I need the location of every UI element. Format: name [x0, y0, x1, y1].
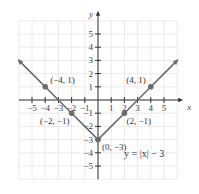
y-tick-label: −3 — [83, 135, 93, 145]
data-point — [122, 110, 128, 116]
y-tick-label: 4 — [89, 42, 94, 52]
x-tick-label: 5 — [162, 103, 167, 113]
y-axis-label: y — [88, 9, 93, 19]
data-point — [69, 110, 75, 116]
y-tick-label: 2 — [89, 69, 94, 79]
point-label: (−2, −1) — [40, 116, 70, 126]
y-tick-label: 3 — [89, 55, 94, 65]
y-tick-label: 1 — [89, 82, 94, 92]
y-tick-label: 5 — [89, 29, 94, 39]
point-label: (4, 1) — [126, 75, 146, 85]
point-label: (2, −1) — [126, 116, 151, 126]
data-point — [95, 137, 101, 143]
x-ticks: −5−4−3−2−112345 — [27, 97, 167, 113]
x-tick-label: 1 — [109, 103, 114, 113]
x-tick-label: 4 — [149, 103, 154, 113]
graph-absolute-value: x y −5−4−3−2−112345 54321−1−2−3−4−5 (−4,… — [0, 0, 199, 194]
y-tick-label: −5 — [83, 161, 93, 171]
point-label: (0, −3) — [102, 142, 127, 152]
y-axis-arrow-icon — [96, 11, 100, 16]
y-tick-label: −4 — [83, 148, 93, 158]
x-tick-label: −4 — [40, 103, 50, 113]
equation-label: y = |x| − 3 — [124, 148, 164, 159]
y-tick-label: −1 — [83, 108, 93, 118]
x-axis-arrow-icon — [178, 98, 183, 102]
x-axis-label: x — [186, 102, 191, 112]
x-tick-label: 3 — [135, 103, 140, 113]
point-label: (−4, 1) — [50, 75, 75, 85]
data-point — [148, 84, 154, 90]
data-point — [42, 84, 48, 90]
x-tick-label: −5 — [27, 103, 37, 113]
